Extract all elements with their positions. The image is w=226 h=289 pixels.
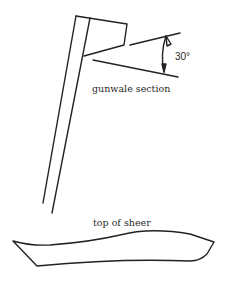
gunwale-section-label: gunwale section <box>92 83 170 94</box>
angle-line-upper <box>130 33 180 45</box>
arrowhead-top-icon <box>166 36 171 46</box>
angle-label: 30° <box>175 51 190 62</box>
sheer-profile <box>13 231 214 266</box>
gunwale-diagram: 30° gunwale section top of sheer <box>0 0 226 289</box>
arrowhead-bottom-icon <box>162 64 166 72</box>
top-of-sheer-label: top of sheer <box>93 217 151 228</box>
frame-post <box>43 16 90 213</box>
